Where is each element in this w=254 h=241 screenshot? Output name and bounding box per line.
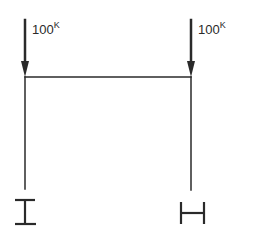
right-load-label: 100K — [198, 20, 226, 37]
right-section-h-icon — [181, 202, 204, 224]
left-load-label: 100K — [32, 20, 60, 37]
left-section-i-icon — [15, 200, 36, 224]
right-load-arrowhead-icon — [187, 61, 195, 77]
portal-frame-diagram: 100K 100K — [0, 0, 254, 241]
left-load-arrowhead-icon — [21, 61, 29, 77]
